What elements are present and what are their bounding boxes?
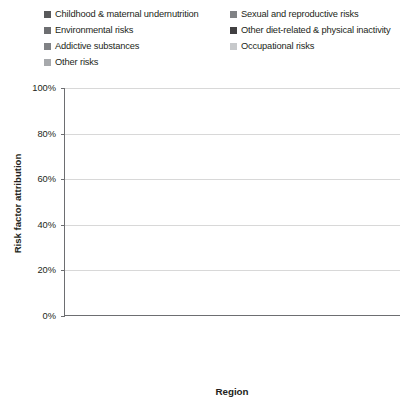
legend-swatch-icon — [230, 27, 237, 34]
legend-item-other-risks: Other risks — [44, 54, 230, 70]
chart-plot-area: Risk factor attribution 0%20%40%60%80%10… — [0, 88, 415, 418]
y-axis-tick-label: 20% — [37, 265, 56, 275]
legend-item-environmental-risks: Environmental risks — [44, 22, 230, 38]
legend-swatch-icon — [230, 43, 237, 50]
legend-swatch-icon — [44, 59, 51, 66]
bar-series-container — [65, 88, 400, 315]
y-axis-tick-label: 60% — [37, 174, 56, 184]
y-axis-tick-label: 0% — [43, 311, 56, 321]
legend-item-label: Other diet-related & physical inactivity — [241, 22, 391, 38]
y-axis-tickmark — [61, 88, 65, 89]
legend-item-label: Occupational risks — [241, 38, 314, 54]
legend-swatch-icon — [44, 43, 51, 50]
x-axis-tick-labels — [64, 316, 400, 388]
legend-item-label: Environmental risks — [55, 22, 133, 38]
gridline — [65, 88, 400, 89]
legend-item-sexual-and-reproductive-risks: Sexual and reproductive risks — [230, 6, 406, 22]
gridline — [65, 225, 400, 226]
legend-swatch-icon — [44, 27, 51, 34]
y-axis-tickmark — [61, 225, 65, 226]
chart-axes — [64, 88, 400, 316]
legend-item-label: Addictive substances — [55, 38, 139, 54]
gridline — [65, 270, 400, 271]
legend-item-label: Childhood & maternal undernutrition — [55, 6, 199, 22]
legend-item-childhood-maternal-undernutrition: Childhood & maternal undernutrition — [44, 6, 230, 22]
y-axis-tick-label: 80% — [37, 129, 56, 139]
y-axis-tickmark — [61, 134, 65, 135]
gridline — [65, 134, 400, 135]
legend-swatch-icon — [44, 11, 51, 18]
y-axis-tick-labels: 0%20%40%60%80%100% — [18, 88, 60, 316]
legend-item-label: Sexual and reproductive risks — [241, 6, 359, 22]
y-axis-tickmark — [61, 270, 65, 271]
legend-item-addictive-substances: Addictive substances — [44, 38, 230, 54]
legend-item-occupational-risks: Occupational risks — [230, 38, 406, 54]
y-axis-tickmark — [61, 179, 65, 180]
legend-swatch-icon — [230, 11, 237, 18]
x-axis-title: Region — [64, 386, 400, 397]
y-axis-tick-label: 100% — [32, 83, 56, 93]
legend-item-other-diet-related-and-physical-inactivity: Other diet-related & physical inactivity — [230, 22, 406, 38]
legend-item-label: Other risks — [55, 54, 98, 70]
gridline — [65, 179, 400, 180]
y-axis-tick-label: 40% — [37, 220, 56, 230]
chart-legend: Childhood & maternal undernutrition Sexu… — [44, 6, 404, 70]
